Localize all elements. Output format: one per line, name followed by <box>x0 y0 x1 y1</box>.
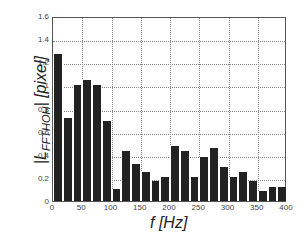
bar <box>170 146 180 202</box>
bar <box>238 172 248 201</box>
x-tick-label: 350 <box>245 203 269 212</box>
bar <box>102 121 112 201</box>
chart-root: |LFFTHOH| [pixel] f [Hz] 050100150200250… <box>0 0 307 239</box>
bar <box>277 187 287 201</box>
bar <box>73 85 83 201</box>
bar <box>112 189 122 201</box>
bar <box>199 157 209 201</box>
grid-line-horizontal <box>53 41 285 42</box>
x-tick-label: 150 <box>128 203 152 212</box>
y-tick-label: 0.6 <box>29 128 49 137</box>
bar <box>248 181 258 201</box>
bar <box>121 151 131 201</box>
bar <box>190 177 200 201</box>
x-tick-label: 100 <box>99 203 123 212</box>
x-axis-label: f [Hz] <box>150 214 187 232</box>
x-tick-label: 200 <box>157 203 181 212</box>
bar <box>160 177 170 201</box>
bar <box>92 85 102 201</box>
bar <box>141 172 151 201</box>
bar <box>63 118 73 201</box>
plot-area <box>52 17 286 202</box>
x-tick-label: 250 <box>186 203 210 212</box>
bar <box>131 164 141 201</box>
y-tick-label: 1 <box>29 81 49 90</box>
grid-line-horizontal <box>53 64 285 65</box>
x-tick-label: 50 <box>69 203 93 212</box>
bar <box>209 148 219 201</box>
y-tick-label: 1.4 <box>29 35 49 44</box>
x-tick-label: 400 <box>274 203 298 212</box>
bar <box>268 187 278 201</box>
y-tick-label: 1.2 <box>29 58 49 67</box>
y-tick-label: 0.4 <box>29 151 49 160</box>
bar <box>180 151 190 201</box>
grid-line-vertical <box>258 18 259 201</box>
y-tick-label: 0.2 <box>29 174 49 183</box>
bar <box>229 177 239 201</box>
bar <box>53 54 63 201</box>
y-tick-label: 0.8 <box>29 105 49 114</box>
grid-line-vertical <box>112 18 113 201</box>
y-tick-label: 0 <box>29 197 49 206</box>
bar <box>219 167 229 201</box>
grid-line-vertical <box>229 18 230 201</box>
bar <box>258 191 268 201</box>
y-tick-label: 1.6 <box>29 12 49 21</box>
bar <box>82 80 92 201</box>
bar <box>151 181 161 201</box>
x-tick-label: 300 <box>216 203 240 212</box>
